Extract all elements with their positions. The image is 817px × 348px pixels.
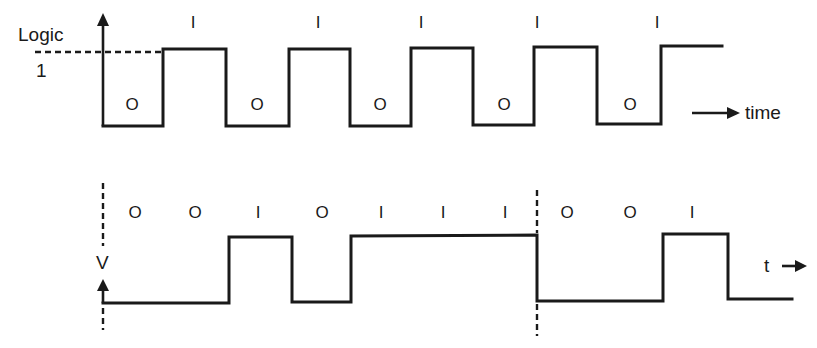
bit-label: O bbox=[250, 95, 263, 114]
bit-label: O bbox=[188, 203, 201, 222]
y-axis-arrow-icon bbox=[97, 13, 109, 126]
bit-label: I bbox=[316, 13, 321, 32]
bit-label: I bbox=[655, 13, 660, 32]
voltage-axis-arrow-icon bbox=[97, 279, 109, 303]
time-axis-label: time bbox=[745, 102, 781, 123]
top-diagram: Logic 1 OIOIOIOIOI time bbox=[18, 13, 781, 126]
bit-label: O bbox=[128, 203, 141, 222]
bit-label: I bbox=[503, 203, 508, 222]
bit-label: O bbox=[623, 95, 636, 114]
bit-label: O bbox=[623, 203, 636, 222]
bit-label: I bbox=[690, 203, 695, 222]
bit-label: I bbox=[441, 203, 446, 222]
logic-axis-label: Logic bbox=[18, 24, 63, 45]
bit-label: I bbox=[535, 13, 540, 32]
time-arrow-icon bbox=[692, 107, 740, 119]
bit-label: O bbox=[497, 95, 510, 114]
bit-label: I bbox=[256, 203, 261, 222]
logic-waveform-diagram: Logic 1 OIOIOIOIOI time V bbox=[0, 0, 817, 348]
top-bit-labels: OIOIOIOIOI bbox=[125, 13, 659, 114]
bit-label: O bbox=[560, 203, 573, 222]
voltage-axis-label: V bbox=[96, 252, 109, 273]
bit-label: I bbox=[191, 13, 196, 32]
bit-label: O bbox=[125, 95, 138, 114]
bit-label: I bbox=[419, 13, 424, 32]
bit-label: I bbox=[379, 203, 384, 222]
t-arrow-icon bbox=[782, 260, 807, 272]
bit-label: O bbox=[373, 95, 386, 114]
bottom-serial-waveform bbox=[103, 234, 792, 303]
bottom-diagram: V OOIOIIIOOI t bbox=[96, 183, 807, 336]
bottom-bit-labels: OOIOIIIOOI bbox=[128, 203, 694, 222]
bit-label: O bbox=[315, 203, 328, 222]
top-square-waveform bbox=[103, 46, 722, 126]
logic-level-one-label: 1 bbox=[36, 60, 47, 81]
t-axis-label: t bbox=[764, 255, 770, 276]
